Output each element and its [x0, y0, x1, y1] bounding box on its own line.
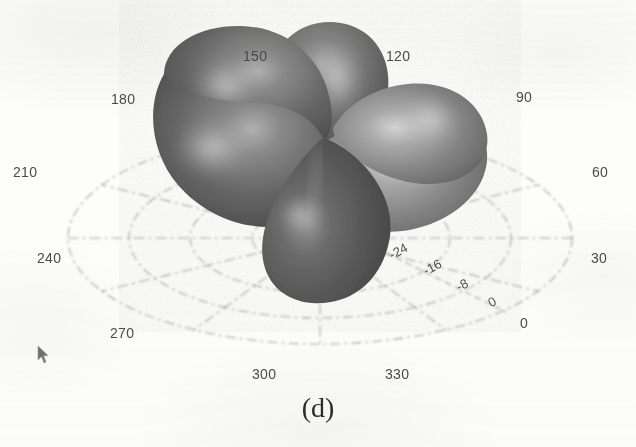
angular-tick-270: 270	[110, 325, 134, 341]
polar-3d-plot	[0, 0, 636, 447]
radial-axis-line	[366, 243, 506, 312]
angular-tick-240: 240	[37, 250, 61, 266]
angular-tick-300: 300	[252, 366, 276, 382]
angular-tick-90: 90	[516, 89, 532, 105]
angular-tick-210: 210	[13, 164, 37, 180]
figure-caption: (d)	[0, 392, 636, 424]
angular-tick-150: 150	[243, 48, 267, 64]
angular-tick-330: 330	[385, 366, 409, 382]
figure-page: 150 120 180 90 210 60 240 30 270 0 300 3…	[0, 0, 636, 447]
angular-tick-30: 30	[591, 250, 607, 266]
angular-tick-180: 180	[111, 91, 135, 107]
angular-tick-60: 60	[592, 164, 608, 180]
angular-tick-0: 0	[520, 315, 528, 331]
mouse-pointer-icon	[36, 345, 50, 365]
angular-tick-120: 120	[386, 48, 410, 64]
